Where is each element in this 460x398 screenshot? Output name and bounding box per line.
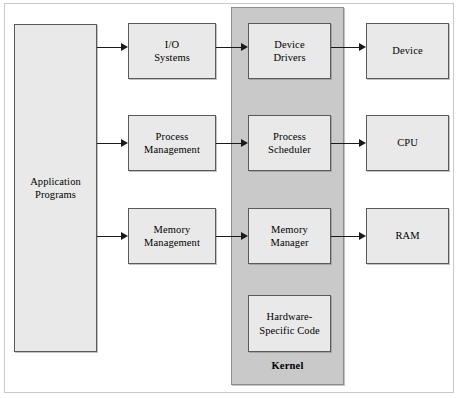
ram-box: RAM [366,208,449,264]
memory-management-box: Memory Management [128,208,216,264]
os-architecture-diagram: Kernel Application Programs I/O Systems … [0,0,460,398]
device-drivers-label: Device Drivers [270,38,308,65]
cpu-label: CPU [394,136,421,149]
device-label: Device [389,44,425,57]
arrow-head-memory-manager-to-ram-icon [359,232,366,240]
io-systems-label: I/O Systems [151,38,193,65]
arrow-scheduler-to-cpu [331,143,359,144]
arrow-app-to-memory-management [97,236,121,237]
arrow-io-to-device-drivers [216,47,241,48]
memory-manager-box: Memory Manager [248,208,331,264]
arrow-memory-manager-to-ram [331,236,359,237]
ram-label: RAM [392,229,422,242]
process-management-box: Process Management [128,115,216,171]
memory-manager-label: Memory Manager [267,223,311,250]
arrow-head-io-to-device-drivers-icon [241,43,248,51]
arrow-process-management-to-scheduler [216,143,241,144]
process-management-label: Process Management [141,130,203,157]
kernel-label: Kernel [231,360,344,371]
arrow-head-app-to-memory-management-icon [121,232,128,240]
arrow-memory-management-to-manager [216,236,241,237]
memory-management-label: Memory Management [141,223,203,250]
cpu-box: CPU [366,115,449,171]
hardware-specific-code-box: Hardware- Specific Code [248,295,331,352]
arrow-head-scheduler-to-cpu-icon [359,139,366,147]
arrow-app-to-process-management [97,143,121,144]
device-box: Device [366,23,449,79]
process-scheduler-label: Process Scheduler [265,130,314,157]
application-programs-label: Application Programs [27,175,84,202]
device-drivers-box: Device Drivers [248,23,331,79]
arrow-app-to-io [97,47,121,48]
process-scheduler-box: Process Scheduler [248,115,331,171]
arrow-device-drivers-to-device [331,47,359,48]
arrow-head-device-drivers-to-device-icon [359,43,366,51]
io-systems-box: I/O Systems [128,23,216,79]
hardware-specific-code-label: Hardware- Specific Code [256,310,323,337]
arrow-head-app-to-process-management-icon [121,139,128,147]
arrow-head-process-management-to-scheduler-icon [241,139,248,147]
arrow-head-app-to-io-icon [121,43,128,51]
application-programs-box: Application Programs [14,24,97,352]
arrow-head-memory-management-to-manager-icon [241,232,248,240]
